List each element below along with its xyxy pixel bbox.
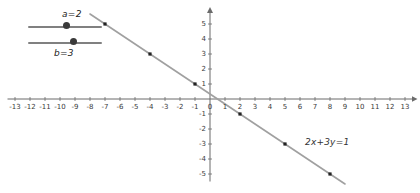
y-tick-label: 1	[202, 80, 206, 88]
y-tick-label: -4	[199, 155, 206, 163]
x-tick-label: 8	[328, 103, 332, 111]
x-tick-label: -9	[72, 103, 79, 111]
y-tick-label: 4	[202, 35, 206, 43]
x-tick-label: 0	[208, 103, 212, 111]
y-tick-label: -2	[199, 125, 206, 133]
x-tick-label: 10	[356, 103, 365, 111]
x-tick-label: 5	[283, 103, 287, 111]
x-tick-label: 11	[371, 103, 380, 111]
equation-label: 2x+3y=1	[305, 137, 349, 147]
x-tick-label: -2	[177, 103, 184, 111]
y-tick-label: 3	[202, 50, 206, 58]
coordinate-plane	[0, 0, 420, 193]
x-tick-label: 12	[386, 103, 395, 111]
x-tick-label: -4	[147, 103, 154, 111]
x-tick-label: 4	[268, 103, 272, 111]
x-tick-label: -11	[39, 103, 50, 111]
x-tick-label: 3	[253, 103, 257, 111]
x-tick-label: 13	[401, 103, 410, 111]
y-tick-label: -5	[199, 170, 206, 178]
y-tick-label: -1	[199, 110, 206, 118]
x-tick-label: -10	[54, 103, 65, 111]
axes	[8, 12, 413, 182]
x-tick-label: -13	[9, 103, 20, 111]
x-tick-label: 1	[223, 103, 227, 111]
x-tick-label: -12	[24, 103, 35, 111]
graph-canvas: a=2 b=3 -13-12-11-10-9-8-7-6-5-4-3-2-101…	[0, 0, 420, 193]
y-tick-label: -3	[199, 140, 206, 148]
x-tick-label: -6	[117, 103, 124, 111]
x-tick-label: 7	[313, 103, 317, 111]
x-tick-label: 2	[238, 103, 242, 111]
x-tick-label: -3	[162, 103, 169, 111]
x-tick-label: -7	[102, 103, 109, 111]
x-tick-label: -5	[132, 103, 139, 111]
x-tick-label: -8	[87, 103, 94, 111]
y-tick-label: 5	[202, 20, 206, 28]
x-tick-label: -1	[192, 103, 199, 111]
y-tick-label: 2	[202, 65, 206, 73]
x-tick-label: 9	[343, 103, 347, 111]
x-tick-label: 6	[298, 103, 302, 111]
